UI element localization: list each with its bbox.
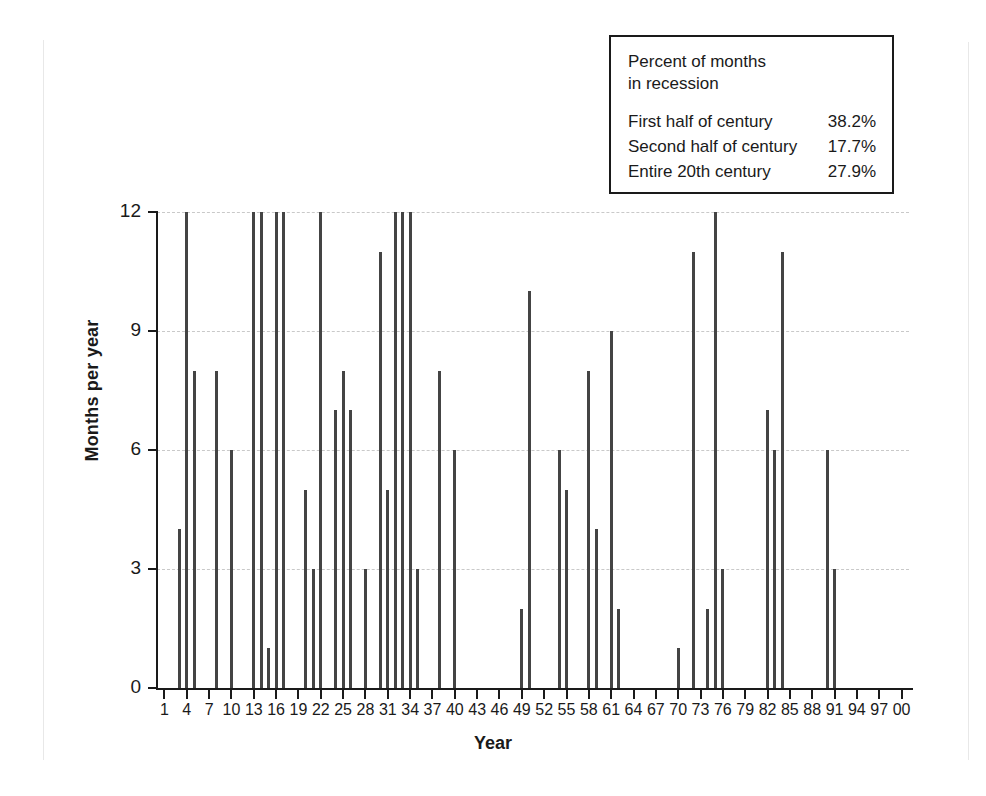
x-axis-tick (901, 690, 903, 699)
bar (714, 212, 717, 688)
stats-row-label: First half of century (628, 109, 773, 134)
x-axis-tick (610, 690, 612, 699)
x-axis-tick (253, 690, 255, 699)
y-axis-tick-label: 0 (101, 676, 141, 698)
bar (781, 252, 784, 688)
bar (379, 252, 382, 688)
bar (394, 212, 397, 688)
x-axis-tick (767, 690, 769, 699)
bar (692, 252, 695, 688)
x-axis-tick (364, 690, 366, 699)
x-axis-tick-label: 00 (887, 701, 917, 719)
bar (252, 212, 255, 688)
bar (260, 212, 263, 688)
bar (193, 371, 196, 688)
x-axis-tick (186, 690, 188, 699)
y-axis-tick-label: 12 (101, 200, 141, 222)
y-axis-tick (148, 687, 156, 689)
bar (595, 529, 598, 688)
bar (304, 490, 307, 688)
y-axis-tick (148, 330, 156, 332)
chart-bars (157, 212, 909, 688)
x-axis-tick (677, 690, 679, 699)
x-axis-tick (320, 690, 322, 699)
y-axis-tick (148, 568, 156, 570)
bar (520, 609, 523, 688)
bar (230, 450, 233, 688)
bar (773, 450, 776, 688)
bar (453, 450, 456, 688)
bar (386, 490, 389, 688)
y-axis-tick-label: 9 (101, 319, 141, 341)
stats-row-value: 27.9% (828, 159, 876, 184)
x-axis-tick (543, 690, 545, 699)
chart-plot-area (157, 212, 909, 688)
y-axis-tick-label: 6 (101, 438, 141, 460)
x-axis-title: Year (0, 733, 986, 754)
bar (409, 212, 412, 688)
x-axis-tick (700, 690, 702, 699)
bar (364, 569, 367, 688)
y-axis-tick (148, 211, 156, 213)
stats-row: Second half of century17.7% (628, 134, 876, 159)
bar (334, 410, 337, 688)
x-axis-tick (387, 690, 389, 699)
bar (275, 212, 278, 688)
x-axis-tick (811, 690, 813, 699)
y-axis-line (156, 211, 158, 689)
x-axis-tick (476, 690, 478, 699)
bar (610, 331, 613, 688)
bar (319, 212, 322, 688)
recession-stats-box: Percent of months in recession First hal… (609, 35, 894, 194)
bar (342, 371, 345, 688)
x-axis-tick (230, 690, 232, 699)
bar (401, 212, 404, 688)
page-edge-left (43, 40, 44, 760)
x-axis-tick (409, 690, 411, 699)
bar (587, 371, 590, 688)
x-axis-tick (275, 690, 277, 699)
x-axis-tick (588, 690, 590, 699)
bar (766, 410, 769, 688)
bar (706, 609, 709, 688)
x-axis-tick (878, 690, 880, 699)
bar (349, 410, 352, 688)
x-axis-tick (789, 690, 791, 699)
stats-row: First half of century38.2% (628, 109, 876, 134)
x-axis-tick (521, 690, 523, 699)
stats-row-label: Entire 20th century (628, 159, 771, 184)
stats-rows: First half of century38.2%Second half of… (628, 109, 876, 184)
bar (178, 529, 181, 688)
bar (438, 371, 441, 688)
bar (721, 569, 724, 688)
bar (558, 450, 561, 688)
stats-row: Entire 20th century27.9% (628, 159, 876, 184)
page-edge-right (968, 42, 969, 760)
stats-row-value: 17.7% (828, 134, 876, 159)
bar (826, 450, 829, 688)
bar (416, 569, 419, 688)
bar (282, 212, 285, 688)
bar (267, 648, 270, 688)
bar (185, 212, 188, 688)
x-axis-tick (208, 690, 210, 699)
stats-row-value: 38.2% (828, 109, 876, 134)
x-axis-tick (722, 690, 724, 699)
x-axis-tick (163, 690, 165, 699)
x-axis-tick (633, 690, 635, 699)
bar (215, 371, 218, 688)
x-axis-tick (566, 690, 568, 699)
x-axis-tick (834, 690, 836, 699)
y-axis-tick-label: 3 (101, 557, 141, 579)
bar (565, 490, 568, 688)
bar (528, 291, 531, 688)
x-axis-tick (342, 690, 344, 699)
bar (312, 569, 315, 688)
x-axis-tick (431, 690, 433, 699)
bar (833, 569, 836, 688)
x-axis-tick (454, 690, 456, 699)
x-axis-tick (498, 690, 500, 699)
bar (617, 609, 620, 688)
y-axis-tick (148, 449, 156, 451)
y-axis-title: Months per year (82, 291, 103, 491)
